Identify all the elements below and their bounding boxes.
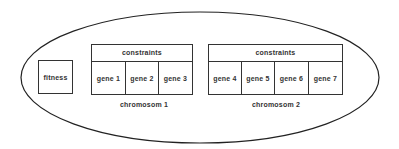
chromosome-2: constraints gene 4 gene 5 gene 6 gene 7 … xyxy=(209,45,343,109)
constraints-label: constraints xyxy=(256,49,296,56)
gene-label: gene 6 xyxy=(280,75,303,83)
fitness-box: fitness xyxy=(39,61,73,94)
gene-label: gene 7 xyxy=(314,75,337,83)
fitness-label: fitness xyxy=(44,74,68,81)
chromosome-label: chromosom 2 xyxy=(252,101,300,108)
chromosome-1: constraints gene 1 gene 2 gene 3 chromos… xyxy=(92,45,193,109)
individual-diagram: fitness constraints gene 1 gene 2 gene 3… xyxy=(0,0,399,149)
gene-label: gene 2 xyxy=(130,75,153,83)
gene-label: gene 1 xyxy=(97,75,120,83)
gene-label: gene 3 xyxy=(164,75,187,83)
chromosome-label: chromosom 1 xyxy=(120,101,168,108)
gene-label: gene 4 xyxy=(213,75,236,83)
gene-label: gene 5 xyxy=(246,75,269,83)
constraints-label: constraints xyxy=(122,49,162,56)
